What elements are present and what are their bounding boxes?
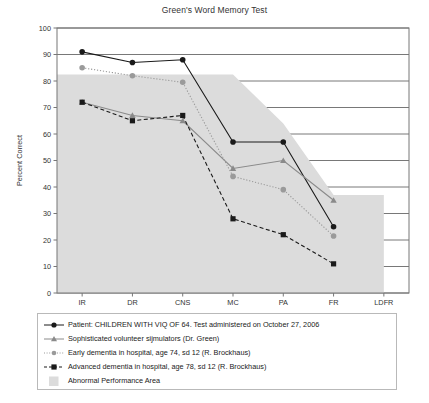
abnormal-area-key-icon [42,374,68,388]
svg-text:CNS: CNS [175,298,191,307]
legend-label-early-dementia: Early dementia in hospital, age 74, sd 1… [68,346,251,360]
svg-text:0: 0 [47,289,51,298]
simulators-series-key-icon [42,332,68,346]
svg-text:Percent Correct: Percent Correct [15,135,24,186]
y-axis-tick-labels: 0102030405060708090100 [39,24,57,298]
legend-label-advanced-dementia: Advanced dementia in hospital, age 78, s… [68,360,266,374]
svg-text:70: 70 [43,103,51,112]
early-dementia-series-key-icon [42,346,68,360]
svg-text:LDFR: LDFR [374,298,393,307]
patient-series-key-icon [42,318,68,332]
svg-text:50: 50 [43,156,51,165]
legend-label-abnormal-area: Abnormal Performance Area [68,374,160,388]
svg-text:100: 100 [39,24,51,33]
legend-item-patient: Patient: CHILDREN WITH VIQ OF 64. Test a… [38,318,396,332]
advanced-dementia-series-key-icon [42,360,68,374]
legend-label-patient: Patient: CHILDREN WITH VIQ OF 64. Test a… [68,318,319,332]
svg-text:80: 80 [43,77,51,86]
svg-text:40: 40 [43,183,51,192]
legend-item-simulators: Sophisticated volunteer sijmulators (Dr.… [38,332,396,346]
x-axis-tick-labels: IRDRCNSMCPAFRLDFR [78,293,393,307]
legend-label-simulators: Sophisticated volunteer sijmulators (Dr.… [68,332,219,346]
svg-text:10: 10 [43,262,51,271]
svg-text:PA: PA [279,298,288,307]
svg-text:20: 20 [43,236,51,245]
svg-text:FR: FR [329,298,339,307]
y-axis-title: Percent Correct [15,135,24,186]
svg-text:60: 60 [43,130,51,139]
svg-text:30: 30 [43,209,51,218]
legend-item-advanced-dementia: Advanced dementia in hospital, age 78, s… [38,360,396,374]
svg-text:IR: IR [78,298,85,307]
chart-container: Green's Word Memory Test 010203040506070… [0,0,429,403]
svg-text:MC: MC [227,298,238,307]
chart-legend: Patient: CHILDREN WITH VIQ OF 64. Test a… [37,313,397,390]
svg-text:90: 90 [43,50,51,59]
legend-item-early-dementia: Early dementia in hospital, age 74, sd 1… [38,346,396,360]
legend-item-abnormal-area: Abnormal Performance Area [38,374,396,388]
svg-text:DR: DR [127,298,138,307]
